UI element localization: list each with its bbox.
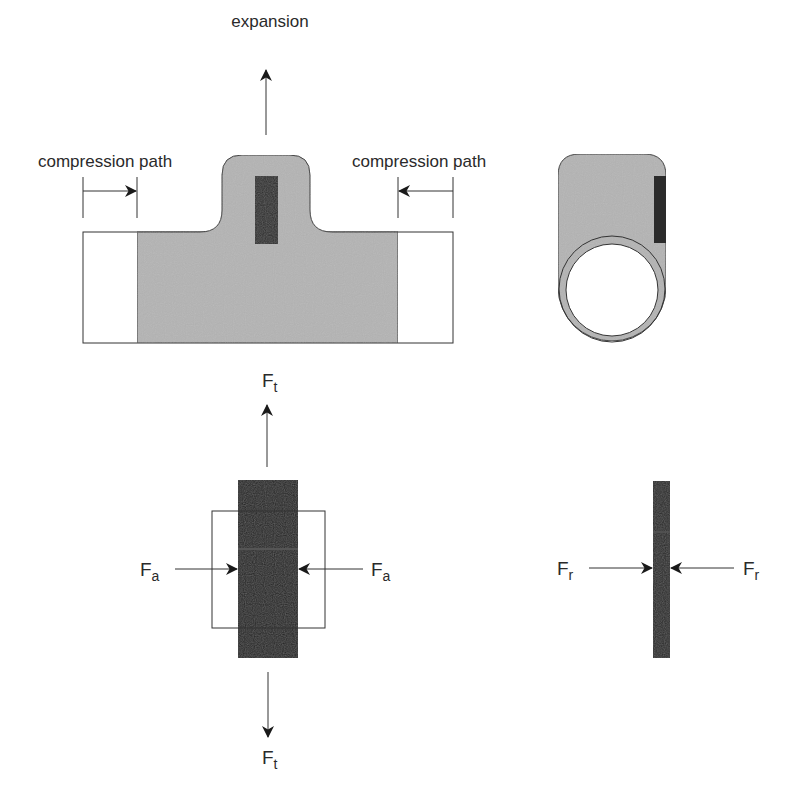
force-ft-bottom-label: Ft — [262, 747, 278, 772]
strain-gauge-front — [255, 176, 278, 244]
gauge-bar-axial — [238, 480, 298, 658]
force-view-radial: Fr Fr — [557, 481, 760, 658]
gauge-bar-radial — [653, 481, 670, 658]
top-front-view: expansion compression path compression p… — [38, 12, 486, 343]
strain-gauge-side — [654, 176, 666, 243]
force-view-axial: Ft Fa Fa Ft — [140, 370, 391, 772]
force-fr-left-label: Fr — [557, 558, 574, 583]
expansion-label: expansion — [231, 12, 309, 31]
force-ft-top-label: Ft — [262, 370, 278, 395]
force-fr-right-label: Fr — [743, 558, 760, 583]
force-fa-right-label: Fa — [371, 559, 391, 584]
side-view — [558, 154, 666, 342]
diagram-canvas: expansion compression path compression p… — [0, 0, 797, 811]
force-fa-left-label: Fa — [140, 559, 160, 584]
compression-path-right-label: compression path — [352, 152, 486, 171]
compression-path-left-label: compression path — [38, 152, 172, 171]
ring-bore — [566, 244, 658, 336]
